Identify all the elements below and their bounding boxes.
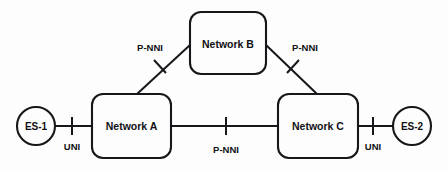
uni-left-label: UNI [64, 141, 80, 152]
interface-marker-pnni-left: P-NNI [137, 42, 166, 74]
network-a-label: Network A [106, 120, 158, 132]
network-diagram: Network B Network A Network C ES-1 ES-2 … [0, 0, 447, 172]
node-es-2[interactable]: ES-2 [393, 107, 431, 145]
network-c-label: Network C [292, 120, 344, 132]
node-es-1[interactable]: ES-1 [17, 107, 55, 145]
es-2-label: ES-2 [401, 121, 424, 132]
diagram-canvas: Network B Network A Network C ES-1 ES-2 … [0, 0, 447, 172]
node-network-a[interactable]: Network A [92, 94, 171, 158]
network-b-label: Network B [202, 38, 254, 50]
pnni-center-label: P-NNI [213, 144, 239, 155]
interface-marker-uni-left: UNI [64, 117, 80, 152]
es-1-label: ES-1 [25, 121, 48, 132]
interface-marker-pnni-right: P-NNI [287, 42, 318, 74]
pnni-left-label: P-NNI [137, 42, 163, 53]
pnni-right-label: P-NNI [292, 42, 318, 53]
interface-marker-uni-right: UNI [365, 117, 381, 152]
interface-marker-pnni-center: P-NNI [213, 117, 239, 155]
pnni-left-tick-icon [154, 60, 166, 73]
node-network-c[interactable]: Network C [278, 94, 358, 158]
uni-right-label: UNI [365, 141, 381, 152]
node-network-b[interactable]: Network B [190, 12, 266, 74]
